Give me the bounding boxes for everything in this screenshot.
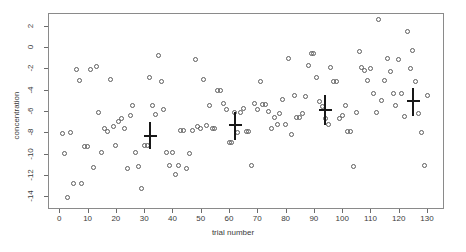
x-tick-mark xyxy=(201,209,202,213)
y-tick-mark xyxy=(44,68,48,69)
x-tick-label: 80 xyxy=(281,214,290,223)
y-tick-mark xyxy=(44,196,48,197)
y-axis-title: concentration xyxy=(12,46,21,186)
x-tick-label: 40 xyxy=(168,214,177,223)
x-tick-mark xyxy=(399,209,400,213)
y-tick-label: -4 xyxy=(26,86,35,93)
x-tick-label: 10 xyxy=(83,214,92,223)
x-tick-label: 0 xyxy=(57,214,61,223)
x-tick-mark xyxy=(144,209,145,213)
x-tick-mark xyxy=(370,209,371,213)
scatter-plot-figure: 0102030405060708090100110120130 20-2-4-6… xyxy=(0,0,466,252)
x-tick-label: 90 xyxy=(309,214,318,223)
x-tick-mark xyxy=(427,209,428,213)
x-axis-title: trial number xyxy=(0,228,466,237)
x-tick-label: 110 xyxy=(364,214,377,223)
x-tick-mark xyxy=(314,209,315,213)
plot-frame xyxy=(48,13,444,209)
x-tick-mark xyxy=(229,209,230,213)
y-tick-mark xyxy=(44,154,48,155)
y-tick-mark xyxy=(44,26,48,27)
x-tick-label: 130 xyxy=(420,214,433,223)
y-tick-label: 2 xyxy=(26,24,35,28)
x-tick-mark xyxy=(59,209,60,213)
x-tick-label: 70 xyxy=(253,214,262,223)
x-tick-mark xyxy=(257,209,258,213)
y-tick-mark xyxy=(44,175,48,176)
y-tick-mark xyxy=(44,111,48,112)
x-tick-mark xyxy=(286,209,287,213)
x-tick-label: 30 xyxy=(140,214,149,223)
x-tick-label: 60 xyxy=(225,214,234,223)
x-tick-label: 50 xyxy=(196,214,205,223)
y-tick-label: -10 xyxy=(26,148,35,160)
y-tick-label: -8 xyxy=(26,129,35,136)
x-tick-label: 120 xyxy=(392,214,405,223)
x-tick-mark xyxy=(88,209,89,213)
y-tick-mark xyxy=(44,132,48,133)
y-tick-mark xyxy=(44,47,48,48)
y-tick-label: -14 xyxy=(26,190,35,202)
y-tick-mark xyxy=(44,90,48,91)
y-tick-label: -6 xyxy=(26,107,35,114)
x-tick-mark xyxy=(342,209,343,213)
y-tick-label: -12 xyxy=(26,169,35,181)
x-tick-label: 20 xyxy=(111,214,120,223)
x-tick-label: 100 xyxy=(335,214,348,223)
x-tick-mark xyxy=(116,209,117,213)
y-tick-label: -2 xyxy=(26,65,35,72)
x-tick-mark xyxy=(172,209,173,213)
y-tick-label: 0 xyxy=(26,45,35,49)
